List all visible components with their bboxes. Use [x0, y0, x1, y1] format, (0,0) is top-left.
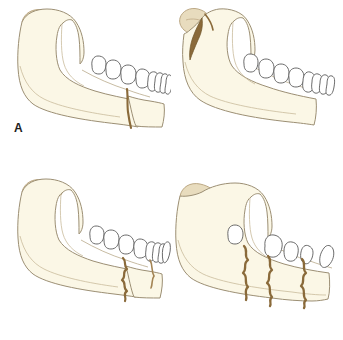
panel-a-illustration [0, 0, 171, 170]
tooth-molar-1-c [90, 226, 104, 244]
panel-b-illustration [172, 0, 343, 170]
tooth-molar-2-c [104, 230, 119, 249]
panel-label-a: A [14, 122, 23, 134]
teeth-group-c [90, 226, 171, 263]
tooth-premolar-1-a [121, 65, 136, 84]
teeth-group-a [92, 56, 171, 94]
mandible-body-d [176, 183, 330, 301]
tooth-molar-1-a [92, 56, 106, 74]
panel-a: A [0, 0, 171, 170]
tooth-molar-2-b [259, 59, 274, 78]
tooth-molar-tilted-1-d [265, 235, 282, 257]
panel-c-illustration [0, 170, 171, 340]
tooth-molar-3-b [274, 64, 289, 83]
tooth-molar-1-b [244, 54, 258, 72]
tooth-incisor-displaced-d [320, 245, 334, 267]
tooth-molar-isolated-d [228, 225, 243, 244]
panel-d-illustration [172, 170, 343, 340]
panel-d: D [172, 170, 343, 340]
tooth-incisor-2-b [326, 76, 335, 95]
tooth-premolar-1-b [289, 68, 304, 87]
tooth-premolar-tilted-d [284, 242, 298, 261]
tooth-premolar-1-c [119, 235, 134, 254]
mandible-fracture-figure: A [0, 0, 343, 340]
tooth-molar-2-a [106, 60, 121, 79]
panel-b: B [172, 0, 343, 170]
panel-c: C [0, 170, 171, 340]
tooth-incisor-3-c [162, 242, 170, 263]
